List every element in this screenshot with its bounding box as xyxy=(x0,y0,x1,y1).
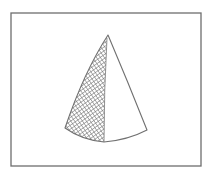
cone-diagram xyxy=(0,0,214,174)
